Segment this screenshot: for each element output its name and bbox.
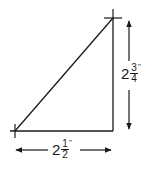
width-fraction: 1 2: [61, 139, 69, 160]
width-whole: 2: [52, 142, 60, 157]
height-unit: ": [138, 63, 141, 71]
hypotenuse: [15, 18, 113, 131]
height-denominator: 4: [130, 74, 138, 84]
height-label: 2 3 4 ": [121, 63, 141, 84]
height-fraction: 3 4: [130, 63, 138, 84]
width-label: 2 1 2 ": [52, 139, 72, 160]
width-denominator: 2: [61, 150, 69, 160]
triangle-diagram: [0, 0, 152, 170]
height-whole: 2: [121, 66, 129, 81]
width-unit: ": [69, 139, 72, 147]
